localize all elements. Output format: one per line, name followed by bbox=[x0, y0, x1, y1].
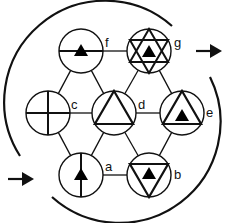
node-circle bbox=[92, 91, 136, 135]
nodes: fgcdeab bbox=[26, 29, 213, 197]
node-label-g: g bbox=[174, 35, 181, 50]
node-label-c: c bbox=[71, 97, 78, 112]
node-label-a: a bbox=[105, 159, 113, 174]
lattice-diagram: fgcdeab bbox=[0, 0, 227, 223]
edge-d-a bbox=[91, 132, 103, 155]
node-label-b: b bbox=[174, 167, 181, 182]
edge-c-a bbox=[58, 132, 70, 155]
node-g: g bbox=[127, 29, 181, 73]
node-c: c bbox=[26, 91, 78, 135]
node-label-d: d bbox=[138, 97, 145, 112]
edge-g-d bbox=[125, 70, 138, 94]
edge-f-c bbox=[58, 70, 70, 93]
edge-f-d bbox=[91, 70, 103, 93]
edge-d-b bbox=[125, 132, 138, 156]
edge-e-b bbox=[159, 132, 171, 155]
node-f: f bbox=[59, 29, 109, 73]
input-arrow bbox=[8, 172, 34, 186]
output-arrow bbox=[196, 44, 222, 58]
edge-g-e bbox=[159, 70, 171, 93]
node-b: b bbox=[127, 153, 181, 197]
node-e: e bbox=[160, 91, 213, 135]
outer-arc-upper-left bbox=[4, 1, 172, 156]
node-label-f: f bbox=[105, 35, 109, 50]
node-label-e: e bbox=[206, 105, 213, 120]
